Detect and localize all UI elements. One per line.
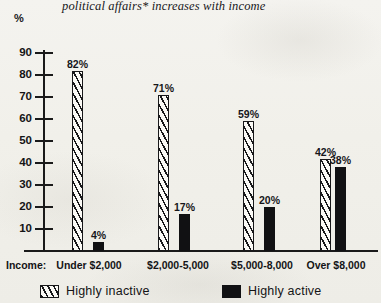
- chart-legend: Highly inactiveHighly active: [0, 0, 381, 303]
- legend-label: Highly inactive: [66, 284, 150, 298]
- legend-swatch-hatched: [40, 285, 59, 298]
- legend-swatch-solid: [222, 285, 241, 298]
- legend-label: Highly active: [248, 284, 321, 298]
- bar-chart: political affairs* increases with income…: [0, 0, 381, 303]
